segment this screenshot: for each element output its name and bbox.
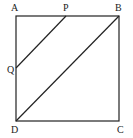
- label-c: C: [117, 124, 124, 135]
- label-b: B: [115, 2, 122, 13]
- segment-pq: [16, 16, 66, 68]
- diagonal-bd: [16, 16, 119, 121]
- label-q: Q: [7, 64, 15, 75]
- geometry-diagram: A P B Q D C: [0, 0, 133, 138]
- label-d: D: [11, 124, 18, 135]
- label-a: A: [11, 2, 19, 13]
- label-p: P: [63, 2, 69, 13]
